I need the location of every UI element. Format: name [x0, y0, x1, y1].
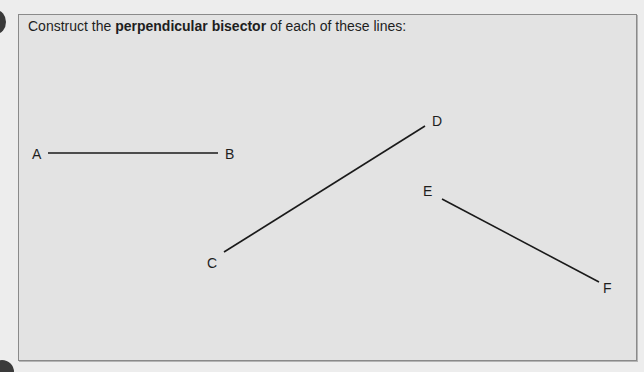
instruction-text: Construct the perpendicular bisector of …: [28, 18, 406, 34]
worksheet-page: Construct the perpendicular bisector of …: [0, 0, 644, 372]
question-panel: Construct the perpendicular bisector of …: [18, 14, 637, 361]
instruction-suffix: of each of these lines:: [266, 18, 406, 34]
instruction-prefix: Construct the: [28, 18, 115, 34]
next-question-badge: [0, 360, 14, 372]
point-label-b: B: [225, 147, 234, 161]
point-label-d: D: [432, 114, 442, 128]
question-number-badge: [0, 10, 6, 34]
point-label-f: F: [603, 281, 612, 295]
instruction-bold-term: perpendicular bisector: [115, 18, 266, 34]
point-label-a: A: [32, 147, 41, 161]
point-label-e: E: [423, 184, 432, 198]
point-label-c: C: [207, 256, 217, 270]
